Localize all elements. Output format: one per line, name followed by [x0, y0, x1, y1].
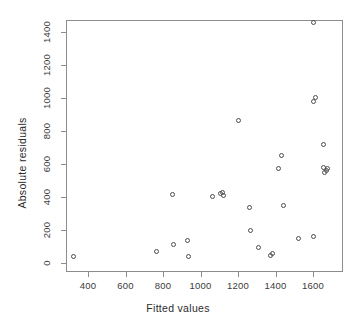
- x-tick-label: 1600: [302, 280, 324, 291]
- x-tick-mark: [88, 272, 89, 277]
- x-tick-mark: [313, 272, 314, 277]
- x-tick-label: 600: [117, 280, 133, 291]
- y-tick-mark: [61, 32, 66, 33]
- x-tick-label: 800: [155, 280, 171, 291]
- y-axis-label-text: Absolute residuals: [16, 117, 28, 208]
- y-tick-label: 600: [41, 150, 52, 178]
- y-axis-label: Absolute residuals: [12, 0, 32, 326]
- y-tick-mark: [61, 197, 66, 198]
- x-tick-label: 1400: [265, 280, 287, 291]
- y-tick-label: 400: [41, 183, 52, 211]
- x-tick-mark: [163, 272, 164, 277]
- y-tick-mark: [61, 230, 66, 231]
- y-tick-mark: [61, 98, 66, 99]
- y-tick-label: 200: [41, 216, 52, 244]
- x-tick-label: 1000: [190, 280, 212, 291]
- x-tick-mark: [276, 272, 277, 277]
- x-axis-label: Fitted values: [0, 302, 356, 314]
- y-tick-mark: [61, 263, 66, 264]
- scatter-plot: 4006008001000120014001600 02004006008001…: [0, 0, 356, 326]
- y-tick-label: 1000: [41, 84, 52, 112]
- x-tick-mark: [201, 272, 202, 277]
- y-tick-label: 0: [41, 249, 52, 277]
- x-tick-label: 1200: [227, 280, 249, 291]
- y-tick-mark: [61, 65, 66, 66]
- x-tick-mark: [126, 272, 127, 277]
- y-tick-mark: [61, 131, 66, 132]
- x-tick-label: 400: [80, 280, 96, 291]
- y-tick-label: 1200: [41, 51, 52, 79]
- y-tick-label: 800: [41, 117, 52, 145]
- y-tick-label: 1400: [41, 18, 52, 46]
- x-tick-mark: [238, 272, 239, 277]
- y-tick-mark: [61, 164, 66, 165]
- plot-frame: [66, 20, 343, 272]
